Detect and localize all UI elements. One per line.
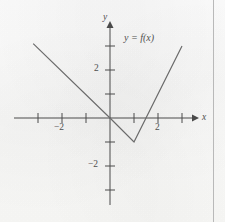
x-axis-arrow-icon [192,115,199,122]
x-axis-label: x [202,112,206,122]
y-tick-label-neg2: −2 [88,159,98,169]
y-axis-arrow-icon [107,21,114,28]
y-tick-label-pos2: 2 [94,63,99,73]
x-tick-label-pos2: 2 [155,122,160,132]
page-right-border [213,0,214,222]
curve-equation-label: y = f(x) [124,32,154,43]
figure-canvas: −2 2 2 −2 x y y = f(x) [0,0,225,222]
x-tick-label-neg2: −2 [54,122,64,132]
y-axis-label: y [103,12,107,22]
graph-plot-area [0,0,225,222]
